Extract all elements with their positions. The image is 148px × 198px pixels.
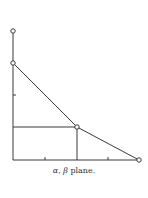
point-y-intercept-circle xyxy=(11,61,15,65)
boundary-polyline xyxy=(13,63,139,160)
point-vertex-circle xyxy=(75,125,79,129)
point-x-intercept-circle xyxy=(137,158,141,162)
figure-caption: α, β plane. xyxy=(0,166,148,175)
caption-rest: plane. xyxy=(68,166,95,175)
point-top-open-circle xyxy=(11,29,15,33)
